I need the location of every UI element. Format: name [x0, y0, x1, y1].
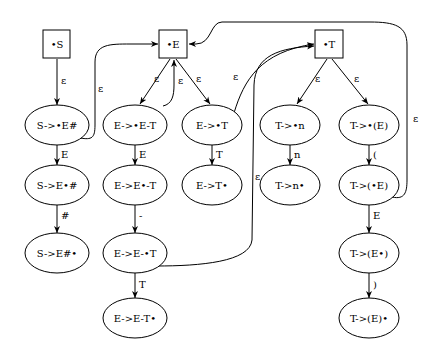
edge-label: -: [139, 210, 142, 221]
node-item: E->E-•T: [103, 233, 167, 273]
node-label: S->E#•: [37, 248, 78, 259]
edge-label: ε: [154, 73, 159, 84]
node-item: E->T•: [182, 165, 242, 205]
edge-label: ε: [255, 171, 260, 182]
node-label: E->E-T•: [114, 313, 156, 324]
node-label: E->•T: [196, 120, 228, 131]
edge-label: E: [139, 149, 146, 160]
node-item: T->(E•): [339, 233, 399, 273]
node-item: E->•T: [182, 105, 242, 145]
node-label: T->•(E): [350, 120, 388, 131]
edge-label: E: [373, 210, 380, 221]
node-label: E->•E-T: [114, 120, 157, 131]
node-label: E->T•: [196, 180, 228, 191]
edge-label: ): [373, 279, 377, 290]
node-label: •E: [166, 39, 179, 50]
nodes: •S •E •T S->•E# S->E•# S->E#• E->•E-T: [25, 30, 399, 338]
lr0-nfa-diagram: ε E # ε ε ε ε E - T ε T: [0, 0, 442, 355]
node-label: S->•E#: [37, 120, 78, 131]
node-label: •T: [323, 39, 336, 50]
node-label: T->(E)•: [350, 313, 388, 324]
node-label: T->n•: [275, 180, 304, 191]
edge-T-to-n12: [332, 59, 368, 104]
edge-label: ε: [196, 73, 201, 84]
node-item: E->E-T•: [103, 298, 167, 338]
edge-label: #: [61, 210, 69, 221]
node-start-E: •E: [159, 30, 187, 58]
node-item: T->(E)•: [339, 298, 399, 338]
node-label: E->E•-T: [114, 180, 156, 191]
edge-label: ε: [61, 75, 66, 86]
node-label: •S: [51, 39, 64, 50]
edge-label: T: [216, 149, 223, 160]
node-item: E->E•-T: [103, 165, 167, 205]
edge-label: ε: [178, 75, 183, 86]
edge-T-to-n10: [297, 59, 327, 104]
edge-label: ε: [98, 83, 103, 94]
node-item: T->•(E): [339, 105, 399, 145]
edge-label: T: [139, 279, 146, 290]
node-start-S: •S: [43, 30, 70, 58]
node-label: S->E•#: [37, 180, 78, 191]
node-item: E->•E-T: [103, 105, 167, 145]
edge-label: ε: [354, 73, 359, 84]
edge-label: n: [294, 149, 301, 160]
node-item: S->•E#: [25, 105, 89, 145]
node-item: S->E•#: [25, 165, 89, 205]
node-label: T->(•E): [350, 180, 388, 191]
node-item: T->•n: [260, 105, 320, 145]
node-label: T->(E•): [350, 248, 388, 259]
edge-label: (: [373, 149, 377, 160]
node-start-T: •T: [315, 30, 343, 58]
edge-label: ε: [413, 113, 418, 124]
node-label: T->•n: [275, 120, 305, 131]
node-item: T->(•E): [339, 165, 399, 205]
edge-label: ε: [233, 71, 238, 82]
edge-label: ε: [315, 73, 320, 84]
edge-label: E: [61, 149, 68, 160]
node-label: E->E-•T: [114, 248, 157, 259]
node-item: T->n•: [260, 165, 320, 205]
node-item: S->E#•: [25, 233, 89, 273]
